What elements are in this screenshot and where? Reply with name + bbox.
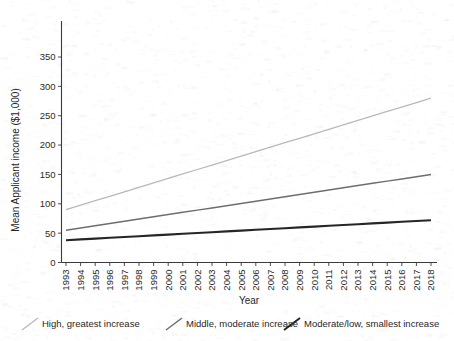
x-tick-label: 2010 xyxy=(309,270,320,291)
x-tick-label: 1997 xyxy=(119,270,130,291)
legend-swatch-0 xyxy=(22,318,38,330)
y-axis-title: Mean Applicant income ($1,000) xyxy=(10,88,21,231)
x-tick-label: 2015 xyxy=(382,270,393,291)
x-tick-label: 2006 xyxy=(250,270,261,291)
y-tick-label: 150 xyxy=(40,169,56,180)
x-tick-label: 2009 xyxy=(294,270,305,291)
x-tick-label: 2007 xyxy=(265,270,276,291)
legend-label-0: High, greatest increase xyxy=(42,318,140,329)
y-tick-label: 350 xyxy=(40,51,56,62)
legend-swatch-1 xyxy=(166,318,182,330)
x-tick-label: 2011 xyxy=(323,270,334,290)
x-tick-label: 2018 xyxy=(425,270,436,291)
x-tick-label: 2001 xyxy=(177,270,188,291)
x-tick-label: 1998 xyxy=(133,270,144,291)
x-tick-label: 2016 xyxy=(396,270,407,291)
x-tick-label: 2003 xyxy=(206,270,217,291)
x-tick-label: 2005 xyxy=(236,270,247,291)
x-tick-label: 2002 xyxy=(192,270,203,291)
x-tick-label: 1999 xyxy=(148,270,159,291)
y-tick-label: 300 xyxy=(40,81,56,92)
x-tick-label: 2014 xyxy=(367,270,378,291)
chart-legend: High, greatest increaseMiddle, moderate … xyxy=(22,318,439,330)
x-tick-label: 2000 xyxy=(163,270,174,291)
x-tick-label: 1994 xyxy=(75,270,86,291)
x-tick-label: 1993 xyxy=(60,270,71,291)
y-axis-ticks: 050100150200250300350 xyxy=(40,51,62,268)
series-lines xyxy=(66,98,431,240)
x-tick-label: 2012 xyxy=(338,270,349,291)
y-tick-label: 0 xyxy=(50,257,55,268)
x-axis-title: Year xyxy=(239,295,260,306)
legend-label-2: Moderate/low, smallest increase xyxy=(304,318,439,329)
x-axis-ticks: 1993199419951996199719981999200020012002… xyxy=(60,263,436,291)
y-tick-label: 250 xyxy=(40,110,56,121)
chart-figure: Mean Applicant income ($1,000) 050100150… xyxy=(0,0,454,341)
legend-label-1: Middle, moderate increase xyxy=(186,318,298,329)
series-line-1 xyxy=(66,174,431,230)
x-tick-label: 2004 xyxy=(221,270,232,291)
x-tick-label: 2017 xyxy=(411,270,422,291)
y-tick-label: 100 xyxy=(40,198,56,209)
x-tick-label: 1995 xyxy=(90,270,101,291)
y-tick-label: 200 xyxy=(40,139,56,150)
x-tick-label: 1996 xyxy=(104,270,115,291)
series-line-0 xyxy=(66,98,431,210)
x-tick-label: 2013 xyxy=(352,270,363,291)
y-tick-label: 50 xyxy=(45,228,56,239)
x-tick-label: 2008 xyxy=(279,270,290,291)
series-line-2 xyxy=(66,220,431,240)
